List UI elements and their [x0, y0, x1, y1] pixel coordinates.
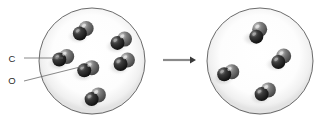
- reactant-container: [39, 8, 145, 115]
- diagram-canvas: CO: [0, 0, 330, 124]
- carbon-atom: [255, 87, 269, 101]
- carbon-atom: [249, 30, 263, 44]
- legend-label-carbon: C: [9, 53, 16, 64]
- carbon-atom: [85, 92, 99, 106]
- carbon-atom: [73, 26, 87, 40]
- arrow-layer: [163, 56, 196, 63]
- arrow-head-icon: [190, 56, 196, 63]
- carbon-atom: [114, 57, 128, 71]
- panels-layer: [39, 8, 313, 115]
- reaction-arrow: [163, 56, 196, 63]
- product-container: [207, 8, 313, 115]
- carbon-atom: [271, 55, 285, 69]
- legend-label-oxygen: O: [8, 75, 15, 86]
- particle-diagram-svg: CO: [0, 0, 330, 124]
